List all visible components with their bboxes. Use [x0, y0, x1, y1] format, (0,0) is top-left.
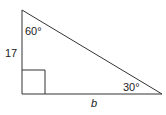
bottom-right-angle-label: 30° [123, 81, 140, 93]
right-angle-marker [22, 70, 45, 94]
right-triangle [22, 10, 162, 94]
bottom-side-label: b [91, 97, 97, 109]
left-side-label: 17 [5, 47, 17, 59]
top-angle-label: 60° [25, 25, 42, 37]
triangle-diagram: 60° 17 30° b [0, 0, 166, 115]
